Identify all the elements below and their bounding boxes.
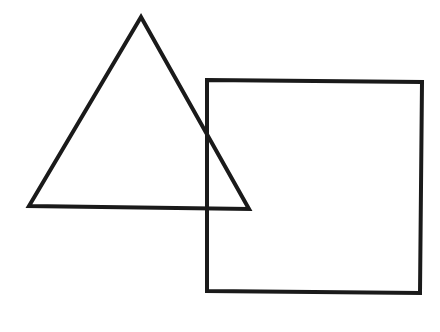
diagram-canvas [0,0,440,332]
square-shape [207,80,422,293]
shapes-svg [0,0,440,332]
triangle-shape [29,17,249,209]
